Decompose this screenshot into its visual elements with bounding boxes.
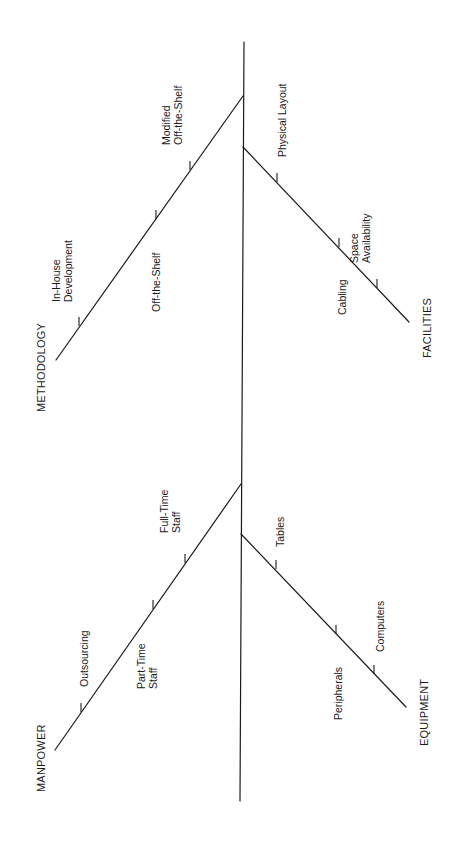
category-methodology: METHODOLOGYModifiedOff-the-ShelfOff-the-… — [35, 86, 243, 412]
cause-label: Part-Time — [135, 643, 147, 689]
methodology-category-label: METHODOLOGY — [35, 323, 47, 412]
cause-label: In-House — [50, 259, 62, 302]
cause-label: Off-the-Shelf — [150, 253, 162, 312]
cause-label: Staff — [170, 512, 182, 533]
cause-label: Outsourcing — [78, 630, 90, 687]
cause-label: Tables — [274, 517, 286, 547]
cause-label: Cabling — [336, 279, 348, 315]
manpower-bone-line — [55, 484, 241, 750]
cause-label: Availability — [360, 213, 372, 263]
cause-label: Staff — [147, 668, 159, 689]
facilities-category-label: FACILITIES — [421, 298, 433, 358]
cause-label: Development — [62, 240, 74, 302]
spine-line — [240, 42, 244, 801]
cause-label: Computers — [374, 601, 386, 652]
cause-label: Full-Time — [158, 489, 170, 533]
fishbone-canvas: METHODOLOGYModifiedOff-the-ShelfOff-the-… — [0, 0, 454, 854]
methodology-bone-line — [56, 96, 243, 360]
cause-label: Off-the-Shelf — [172, 86, 184, 145]
fishbone-diagram: METHODOLOGYModifiedOff-the-ShelfOff-the-… — [0, 0, 454, 854]
equipment-category-label: EQUIPMENT — [418, 679, 430, 746]
category-manpower: MANPOWERFull-TimeStaffPart-TimeStaffOuts… — [35, 484, 241, 792]
category-bones: METHODOLOGYModifiedOff-the-ShelfOff-the-… — [35, 83, 433, 792]
facilities-bone-line — [243, 147, 409, 322]
cause-label: Peripherals — [332, 667, 344, 720]
manpower-category-label: MANPOWER — [35, 724, 47, 792]
category-equipment: EQUIPMENTTablesPeripheralsComputers — [241, 517, 430, 746]
category-facilities: FACILITIESPhysical LayoutCablingSpaceAva… — [243, 83, 433, 358]
cause-label: Physical Layout — [276, 83, 288, 157]
cause-label: Space — [348, 233, 360, 263]
cause-label: Modified — [160, 105, 172, 145]
